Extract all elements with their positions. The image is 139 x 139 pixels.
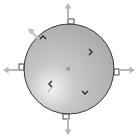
- west-handle[interactable]: [19, 64, 24, 70]
- arrow-right-icon[interactable]: [119, 67, 135, 74]
- east-handle[interactable]: [114, 69, 119, 75]
- arrow-up-icon[interactable]: [65, 3, 72, 19]
- center-dot-icon: [67, 67, 71, 71]
- sphere-gizmo[interactable]: [0, 0, 139, 139]
- arrow-up-left-icon[interactable]: [28, 28, 38, 39]
- north-handle[interactable]: [68, 19, 74, 24]
- south-handle[interactable]: [63, 114, 69, 119]
- arrow-left-icon[interactable]: [3, 67, 19, 74]
- arrow-down-icon[interactable]: [65, 119, 72, 135]
